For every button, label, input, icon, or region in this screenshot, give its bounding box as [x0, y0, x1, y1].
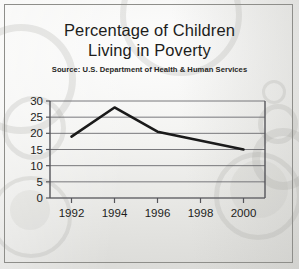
x-axis-labels-group: 19921994199619982000 [59, 207, 257, 219]
x-axis-tick-label: 2000 [231, 207, 257, 219]
y-axis-labels-group: 051015202530 [30, 95, 43, 204]
y-axis-tick-label: 0 [37, 192, 43, 204]
data-series-line [72, 107, 244, 149]
chart-svg: 051015202530 19921994199619982000 [0, 0, 299, 269]
y-axis-tick-label: 15 [30, 144, 43, 156]
x-axis-tick-label: 1998 [188, 207, 214, 219]
y-axis-tick-label: 30 [30, 95, 43, 107]
x-axis-tick-label: 1994 [102, 207, 128, 219]
y-axis-tick-label: 5 [37, 176, 43, 188]
y-axis-tick-label: 10 [30, 160, 43, 172]
chart-page: Percentage of Children Living in Poverty… [0, 0, 299, 269]
x-axis-ticks-group [72, 198, 244, 203]
x-axis-tick-label: 1992 [59, 207, 85, 219]
x-axis-tick-label: 1996 [145, 207, 171, 219]
y-axis-tick-label: 20 [30, 127, 43, 139]
line-chart: 051015202530 19921994199619982000 [0, 0, 299, 269]
y-axis-tick-label: 25 [30, 111, 43, 123]
gridlines-group [50, 101, 265, 198]
